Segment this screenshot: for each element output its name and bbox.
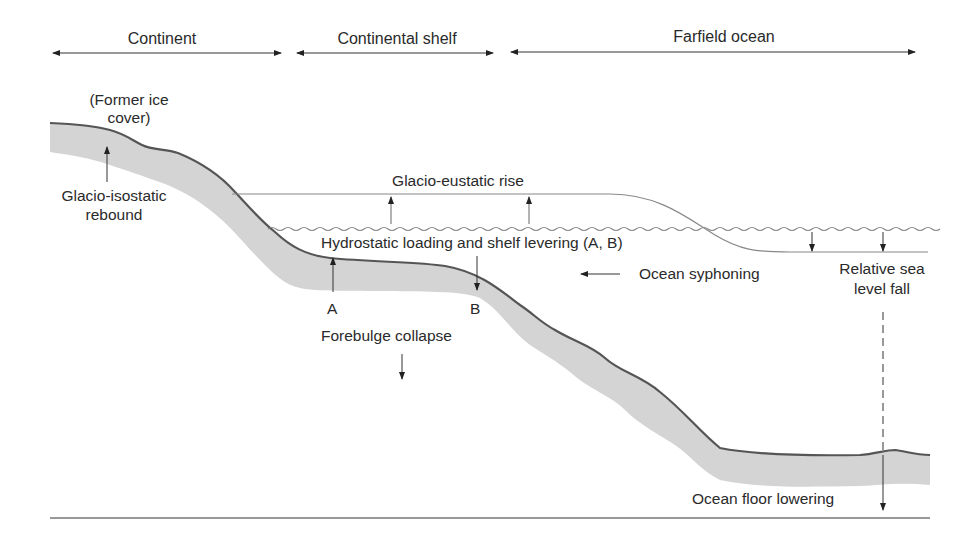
point-b-label: B xyxy=(470,300,480,318)
diagram-canvas xyxy=(0,0,965,547)
hydrostatic-label: Hydrostatic loading and shelf levering (… xyxy=(321,234,623,252)
region-label-continental-shelf: Continental shelf xyxy=(337,30,456,48)
region-label-farfield-ocean: Farfield ocean xyxy=(673,28,774,46)
former-ice-label-2: cover) xyxy=(107,109,150,127)
former-ice-label-1: (Former ice xyxy=(89,91,168,109)
eustatic-rise-label: Glacio-eustatic rise xyxy=(392,172,524,190)
relative-sea-label-1: Relative sea xyxy=(839,260,924,278)
relative-sea-label-2: level fall xyxy=(854,280,910,298)
rebound-label-2: rebound xyxy=(86,206,143,224)
rebound-label-1: Glacio-isostatic xyxy=(61,187,166,205)
forebulge-label: Forebulge collapse xyxy=(321,327,452,345)
region-arrows xyxy=(53,52,915,53)
region-label-continent: Continent xyxy=(128,30,197,48)
syphoning-label: Ocean syphoning xyxy=(639,265,760,283)
wavy-sea-surface xyxy=(268,228,940,231)
floor-lowering-label: Ocean floor lowering xyxy=(692,490,834,508)
point-a-label: A xyxy=(327,300,337,318)
